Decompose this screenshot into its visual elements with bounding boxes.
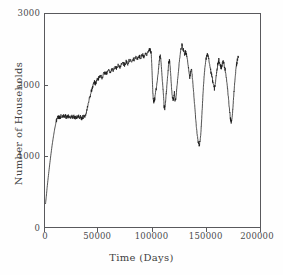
y-tick-label-3000: 3000	[18, 8, 40, 18]
data-line-chart	[45, 14, 260, 227]
caption-sliver	[6, 268, 277, 275]
y-axis-title: Number of Households	[13, 54, 24, 194]
x-axis-title: Time (Days)	[0, 252, 283, 263]
chart-figure: 3000 2000 1000 0 Number of Households 0 …	[0, 0, 283, 275]
x-tick-label-200000: 200000	[240, 231, 274, 241]
plot-area	[44, 13, 261, 228]
x-tick-label-100000: 100000	[135, 231, 169, 241]
series-line-number-of-households	[46, 43, 239, 203]
x-tick-label-0: 0	[42, 231, 48, 241]
x-tick-label-150000: 150000	[189, 231, 223, 241]
x-tick-label-50000: 50000	[83, 231, 111, 241]
y-tick-label-0: 0	[34, 223, 40, 233]
